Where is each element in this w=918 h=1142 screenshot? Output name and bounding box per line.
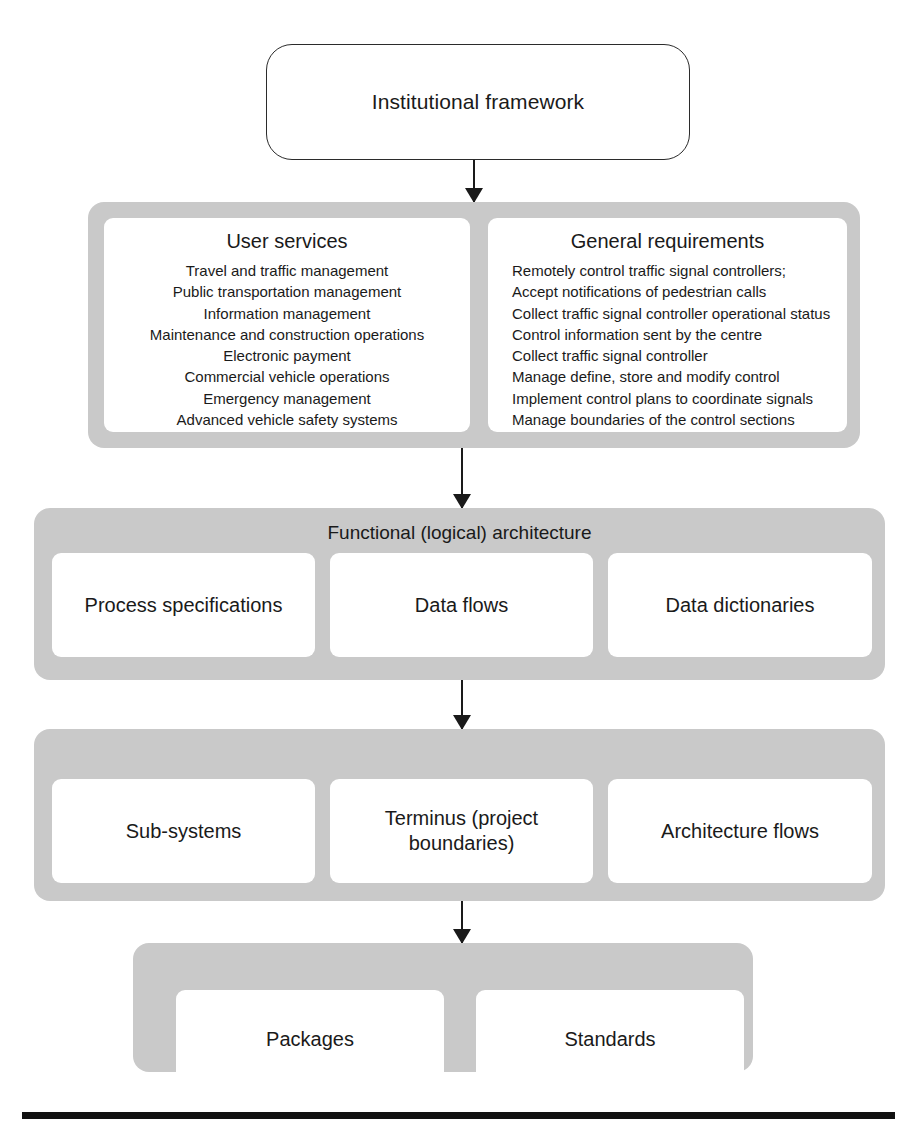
panel-terminus: Terminus (project boundaries) <box>330 779 593 883</box>
general-requirements-list: Remotely control traffic signal controll… <box>498 260 837 430</box>
connector-framework-to-requirements-arrow <box>473 160 475 202</box>
connector-physical-to-deployment-arrow <box>461 901 463 943</box>
process-specifications-label: Process specifications <box>85 593 283 618</box>
list-item: Public transportation management <box>114 281 460 302</box>
list-item: Manage define, store and modify control <box>512 366 837 387</box>
institutional-framework-label: Institutional framework <box>372 90 584 114</box>
sub-systems-label: Sub-systems <box>126 819 242 844</box>
list-item: Travel and traffic management <box>114 260 460 281</box>
list-item: Electronic payment <box>114 345 460 366</box>
user-services-heading: User services <box>114 230 460 253</box>
list-item: Implement control plans to coordinate si… <box>512 388 837 409</box>
institutional-framework-node: Institutional framework <box>266 44 690 160</box>
list-item: Maintenance and construction operations <box>114 324 460 345</box>
panel-data-dictionaries: Data dictionaries <box>608 553 872 657</box>
list-item: Accept notifications of pedestrian calls <box>512 281 837 302</box>
list-item: Commercial vehicle operations <box>114 366 460 387</box>
list-item: Manage boundaries of the control section… <box>512 409 837 430</box>
list-item: Emergency management <box>114 388 460 409</box>
list-item: Information management <box>114 303 460 324</box>
architecture-flows-label: Architecture flows <box>661 819 819 844</box>
panel-data-flows: Data flows <box>330 553 593 657</box>
diagram-canvas: Institutional framework User services Tr… <box>0 0 918 1142</box>
general-requirements-heading: General requirements <box>498 230 837 253</box>
list-item: Collect traffic signal controller <box>512 345 837 366</box>
standards-label: Standards <box>564 1027 655 1052</box>
bottom-horizontal-rule <box>22 1112 895 1119</box>
data-dictionaries-label: Data dictionaries <box>666 593 815 618</box>
panel-sub-systems: Sub-systems <box>52 779 315 883</box>
list-item: Collect traffic signal controller operat… <box>512 303 837 324</box>
functional-architecture-title: Functional (logical) architecture <box>34 522 885 544</box>
connector-functional-to-physical-arrow <box>461 680 463 729</box>
list-item: Remotely control traffic signal controll… <box>512 260 837 281</box>
list-item: Control information sent by the centre <box>512 324 837 345</box>
panel-process-specifications: Process specifications <box>52 553 315 657</box>
user-services-list: Travel and traffic management Public tra… <box>114 260 460 430</box>
data-flows-label: Data flows <box>415 593 508 618</box>
panel-architecture-flows: Architecture flows <box>608 779 872 883</box>
panel-general-requirements: General requirements Remotely control tr… <box>488 218 847 432</box>
page-background-mask <box>0 1072 918 1142</box>
packages-label: Packages <box>266 1027 354 1052</box>
connector-requirements-to-functional-arrow <box>461 448 463 508</box>
list-item: Advanced vehicle safety systems <box>114 409 460 430</box>
terminus-label: Terminus (project boundaries) <box>367 806 557 856</box>
panel-user-services: User services Travel and traffic managem… <box>104 218 470 432</box>
